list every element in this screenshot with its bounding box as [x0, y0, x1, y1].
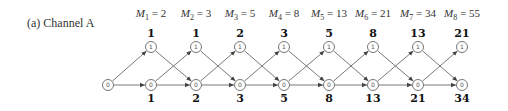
top-count-label: 13 — [410, 27, 425, 40]
stage-m-label: M2 = 3 — [181, 7, 211, 22]
bottom-count-label: 8 — [325, 92, 333, 105]
stage-m-label: M4 = 8 — [269, 7, 299, 22]
start-node: 0 — [102, 79, 114, 91]
bottom-count-label: 5 — [280, 92, 288, 105]
state-node-0: 0 — [234, 79, 246, 91]
state-node-1: 1 — [145, 41, 157, 53]
state-node-0: 0 — [367, 79, 379, 91]
state-node-0: 0 — [412, 79, 424, 91]
stage-m-label: M6 = 21 — [355, 7, 391, 22]
stage-m-label: M8 = 55 — [444, 7, 480, 22]
top-count-label: 1 — [147, 27, 155, 40]
stage-m-label: M1 = 2 — [136, 7, 166, 22]
bottom-count-label: 13 — [365, 92, 380, 105]
stage-m-label: M7 = 34 — [400, 7, 436, 22]
state-node-1: 1 — [190, 41, 202, 53]
stage-m-label: M3 = 5 — [225, 7, 255, 22]
bottom-count-label: 1 — [147, 92, 155, 105]
transition-arrow — [112, 51, 146, 81]
state-node-1: 1 — [367, 41, 379, 53]
state-node-1: 1 — [323, 41, 335, 53]
top-count-label: 3 — [280, 27, 288, 40]
state-node-1: 1 — [234, 41, 246, 53]
bottom-count-label: 2 — [192, 92, 200, 105]
top-count-label: 2 — [236, 27, 244, 40]
state-node-1: 1 — [412, 41, 424, 53]
bottom-count-label: 34 — [454, 92, 469, 105]
state-node-0: 0 — [323, 79, 335, 91]
top-count-label: 1 — [192, 27, 200, 40]
state-node-0: 0 — [190, 79, 202, 91]
bottom-count-label: 21 — [410, 92, 425, 105]
state-node-1: 1 — [456, 41, 468, 53]
stage-m-label: M5 = 13 — [311, 7, 347, 22]
top-count-label: 21 — [454, 27, 469, 40]
state-node-1: 1 — [278, 41, 290, 53]
top-count-label: 8 — [369, 27, 377, 40]
state-node-0: 0 — [456, 79, 468, 91]
state-node-0: 0 — [278, 79, 290, 91]
state-node-0: 0 — [145, 79, 157, 91]
bottom-count-label: 3 — [236, 92, 244, 105]
top-count-label: 5 — [325, 27, 333, 40]
